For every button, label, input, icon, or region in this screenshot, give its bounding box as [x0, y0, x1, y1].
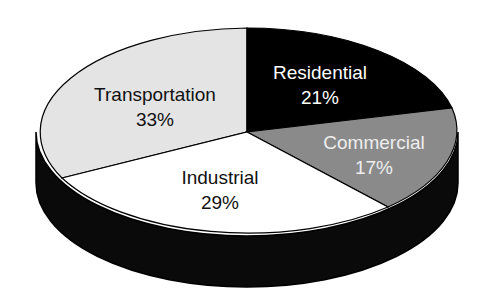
label-residential: Residential 21%	[273, 60, 367, 110]
label-industrial: Industrial 29%	[181, 165, 258, 215]
label-transportation: Transportation 33%	[94, 82, 216, 132]
label-commercial: Commercial 17%	[323, 130, 424, 180]
pie-chart: Residential 21% Commercial 17% Industria…	[0, 0, 485, 308]
